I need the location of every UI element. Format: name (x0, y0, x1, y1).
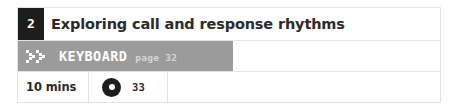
resource-row: KEYBOARD page 32 (18, 41, 440, 72)
duration-label: 10 mins (26, 80, 76, 94)
lesson-title-row: 2 Exploring call and response rhythms (18, 8, 440, 41)
disc-icon (102, 78, 121, 97)
resource-label: KEYBOARD (59, 48, 127, 64)
duration-cell: 10 mins (18, 72, 89, 102)
resource-band[interactable]: KEYBOARD page 32 (18, 41, 233, 71)
meta-row: 10 mins 33 (18, 72, 440, 103)
resource-page-reference: page 32 (135, 49, 177, 63)
lesson-card: 2 Exploring call and response rhythms (17, 7, 441, 103)
double-chevron-icon (26, 50, 52, 63)
meta-empty-cell (168, 72, 440, 102)
lesson-title: Exploring call and response rhythms (51, 8, 345, 40)
track-cell[interactable]: 33 (89, 72, 168, 102)
lesson-number-label: 2 (18, 8, 44, 40)
lesson-number-badge: 2 (18, 8, 44, 40)
track-number-label: 33 (132, 81, 145, 93)
